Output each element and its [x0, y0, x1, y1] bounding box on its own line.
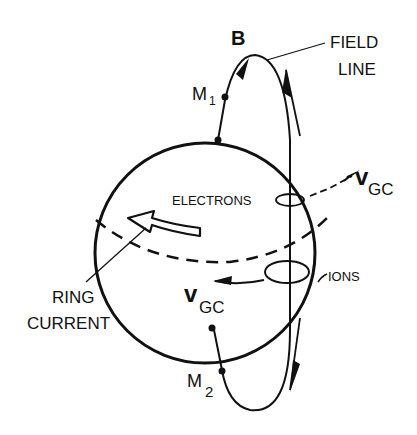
ring-current-arrow [128, 211, 200, 236]
m1-subscript: 1 [209, 94, 216, 108]
magnetic-field-line [214, 55, 290, 410]
m2-subscript: 2 [205, 383, 213, 400]
mirror-point-m1 [222, 94, 229, 101]
earth-sphere [95, 143, 315, 363]
footpoint-lower [209, 325, 216, 332]
vgc-lower-label: v [184, 280, 198, 307]
ring-current-label-2: CURRENT [27, 314, 110, 333]
mirror-point-m2 [219, 368, 226, 375]
ring-current-label-1: RING [52, 288, 95, 307]
field-line-leader [267, 43, 325, 60]
ions-label-tick [318, 274, 327, 282]
ions-label: IONS [328, 269, 360, 284]
b-field-label: B [231, 27, 245, 49]
vgc-upper-label: v [355, 163, 369, 190]
electrons-label: ELECTRONS [172, 193, 252, 208]
m1-label: M [192, 84, 207, 104]
vgc-lower-subscript: GC [199, 298, 225, 317]
ion-gyration-loop [265, 261, 309, 283]
bounce-arrow-down-head [290, 360, 300, 392]
equator-dashed-line [96, 218, 327, 262]
ring-current-diagram: B FIELD LINE M 1 M 2 ELECTRONS IONS v GC… [0, 0, 417, 435]
m2-label: M [187, 371, 202, 391]
footpoint-upper [215, 137, 222, 144]
field-line-label-1: FIELD [330, 33, 378, 52]
ion-drift-arrowhead [213, 276, 232, 285]
field-line-label-2: LINE [338, 60, 376, 79]
vgc-upper-subscript: GC [368, 180, 394, 199]
